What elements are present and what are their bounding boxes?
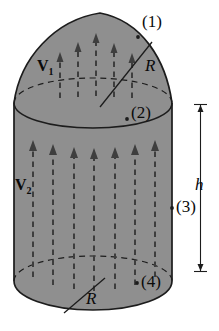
vector-field-cylinder-figure: V1 (1) R (2) V2 h (3) (4) R	[0, 0, 219, 331]
point3-label: (3)	[176, 198, 196, 215]
point1-label: (1)	[142, 13, 162, 30]
point1-dot	[136, 35, 140, 39]
point2-label: (2)	[131, 104, 151, 121]
point3-dot	[170, 206, 174, 210]
v2-label: V2	[15, 177, 32, 193]
point4-label: (4)	[141, 273, 161, 290]
height-label: h	[195, 176, 204, 193]
top-radius-label: R	[145, 57, 155, 74]
point2-dot	[125, 117, 129, 121]
bottom-radius-label: R	[86, 290, 96, 307]
v1-label: V1	[37, 58, 54, 74]
figure-canvas	[0, 0, 219, 331]
point4-dot	[135, 281, 139, 285]
